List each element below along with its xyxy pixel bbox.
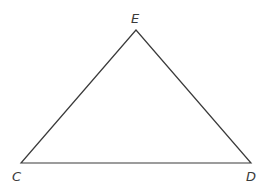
vertex-label-e: E [131, 11, 140, 26]
triangle-cde [21, 30, 251, 163]
triangle-diagram: E C D [0, 0, 270, 190]
vertex-label-c: C [12, 169, 22, 184]
vertex-label-d: D [246, 169, 256, 184]
